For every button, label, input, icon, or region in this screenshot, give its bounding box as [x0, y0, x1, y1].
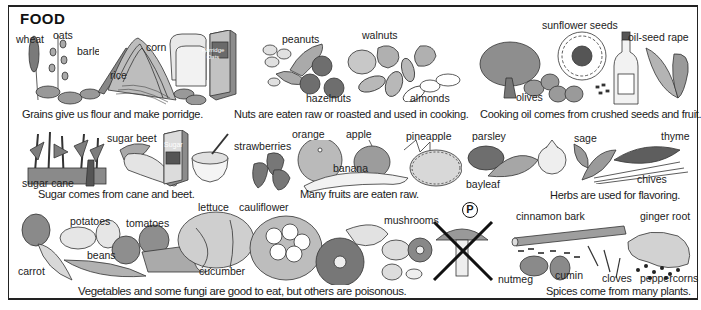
label-thyme: thyme: [661, 131, 690, 142]
sunflower-icon: [558, 32, 609, 94]
label-lettuce: lettuce: [198, 202, 229, 213]
label-walnuts: walnuts: [362, 30, 398, 41]
label-oil-seed-rape: oil-seed rape: [628, 32, 689, 43]
label-cauliflower: cauliflower: [239, 202, 289, 213]
sugar-bowl-icon: [192, 134, 228, 182]
biscuits-icon: [36, 86, 100, 104]
label-mushrooms: mushrooms: [384, 215, 439, 226]
label-banana: banana: [333, 163, 368, 174]
label-strawberries: strawberries: [234, 141, 291, 152]
label-barley: barley: [77, 46, 99, 57]
label-potatoes: potatoes: [70, 216, 110, 227]
label-beans: beans: [87, 250, 116, 261]
label-ginger-root: ginger root: [640, 211, 690, 222]
box-text-line: Oats: [207, 54, 220, 60]
ginger-root-icon: [628, 232, 690, 267]
thyme-icon: [614, 147, 680, 164]
label-sugar-cane: sugar cane: [22, 178, 74, 189]
strawberries-icon: [253, 153, 290, 190]
bread-icon: [170, 34, 206, 105]
label-peppercorns: peppercorns: [640, 273, 698, 284]
pineapple-icon: [404, 140, 462, 186]
label-corn: corn: [146, 42, 166, 53]
label-pineapple: pineapple: [406, 131, 452, 142]
caption-spices: Spices come from many plants.: [546, 286, 691, 297]
cumin-icon: [518, 248, 580, 258]
garlic-icon: [538, 140, 566, 174]
caption-fruits: Many fruits are eaten raw.: [300, 189, 419, 200]
caption-sugar: Sugar comes from cane and beet.: [38, 189, 194, 200]
caption-herbs: Herbs are used for flavoring.: [550, 190, 680, 201]
label-cucumber: cucumber: [199, 266, 245, 277]
porridge-oats-box-icon: [210, 30, 236, 100]
caption-grains: Grains give us flour and make porridge.: [22, 109, 203, 120]
caption-oils: Cooking oil comes from crushed seeds and…: [480, 109, 701, 120]
cauliflower-icon: [250, 216, 322, 280]
label-wheat: wheat: [16, 34, 44, 45]
label-peanuts: peanuts: [282, 34, 319, 45]
label-bayleaf: bayleaf: [466, 179, 500, 190]
grains-illustration: [18, 30, 238, 105]
label-sunflower-seeds: sunflower seeds: [542, 20, 618, 31]
label-hazelnuts: hazelnuts: [306, 93, 351, 104]
caption-vegetables: Vegetables and some fungi are good to ea…: [78, 286, 406, 298]
walnuts-icon: [348, 46, 436, 74]
oil-seed-rape-icon: [646, 48, 688, 98]
label-rice: rice: [110, 70, 127, 81]
label-orange: orange: [292, 129, 325, 140]
label-almonds: almonds: [410, 93, 450, 104]
label-parsley: parsley: [472, 131, 506, 142]
label-cinnamon-bark: cinnamon bark: [516, 211, 585, 222]
label-tomatoes: tomatoes: [126, 218, 169, 229]
poison-symbol-icon: P: [462, 202, 478, 218]
sugar-box-icon: [164, 130, 188, 186]
cinnamon-bark-icon: [512, 226, 626, 246]
label-olives: olives: [516, 92, 543, 103]
lettuce-icon: [178, 212, 254, 268]
label-cloves: cloves: [602, 273, 632, 284]
sage-icon: [574, 144, 616, 180]
page-title: FOOD: [20, 10, 65, 27]
label-carrot: carrot: [18, 266, 45, 277]
label-apple: apple: [346, 129, 372, 140]
label-nutmeg: nutmeg: [498, 274, 533, 285]
label-chives: chives: [637, 174, 667, 185]
beans-icon: [64, 260, 146, 277]
label-oats: oats: [53, 30, 73, 41]
mushrooms-icon: [316, 225, 432, 285]
label-sage: sage: [574, 133, 597, 144]
porridge-box-text: Porridge Oats: [200, 47, 226, 60]
oats-icon: [49, 35, 68, 90]
box-text-line: Porridge: [202, 47, 225, 53]
sugar-box-text: Sugar: [164, 141, 183, 148]
poison-symbol-letter: P: [466, 203, 473, 215]
label-sugar-beet: sugar beet: [107, 133, 157, 144]
caption-nuts: Nuts are eaten raw or roasted and used i…: [234, 109, 468, 120]
label-cumin: cumin: [555, 270, 583, 281]
